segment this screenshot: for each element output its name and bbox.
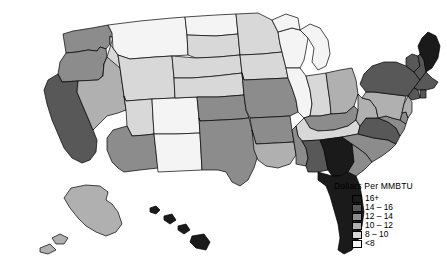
legend-swatch (352, 231, 362, 239)
state-ia: Iowa — 8 – 10 (240, 52, 288, 80)
state-ar: Arkansas — 12 – 14 (250, 116, 294, 144)
legend-row: 8 – 10 (333, 230, 443, 239)
legend-label: <8 (365, 239, 375, 248)
state-wa: Washington — 12 – 14 (63, 25, 117, 53)
state-co: Colorado — <8 (152, 97, 200, 134)
legend-title: Dollars Per MMBTU (333, 181, 443, 191)
legend-row: 10 – 12 (333, 221, 443, 230)
map-legend: Dollars Per MMBTU 16+14 – 1612 – 1410 – … (333, 181, 443, 248)
legend-swatch (352, 195, 362, 203)
state-ak: Alaska — 10 – 12 (40, 185, 122, 254)
state-ri: Rhode Island — 14 – 16 (420, 90, 426, 98)
state-nd: North Dakota — <8 (185, 14, 238, 36)
legend-swatch (352, 240, 362, 248)
legend-entries: 16+14 – 1612 – 1410 – 128 – 10<8 (333, 194, 443, 248)
state-nm: New Mexico — <8 (154, 133, 202, 172)
state-sd: South Dakota — 8 – 10 (187, 34, 240, 58)
state-hi: Hawaii — 16+ (150, 206, 210, 250)
state-mt: Montana — <8 (108, 17, 188, 59)
legend-swatch (352, 204, 362, 212)
state-or: Oregon — 12 – 14 (58, 47, 107, 82)
legend-row: <8 (333, 239, 443, 248)
state-wy: Wyoming — 8 – 10 (118, 55, 175, 101)
state-tx: Texas — 12 – 14 (199, 118, 258, 186)
state-ok: Oklahoma — 12 – 14 (197, 95, 249, 121)
legend-swatch (352, 222, 362, 230)
choropleth-figure: Washington — 12 – 14Oregon — 12 – 14Cali… (0, 0, 447, 275)
legend-swatch (352, 213, 362, 221)
